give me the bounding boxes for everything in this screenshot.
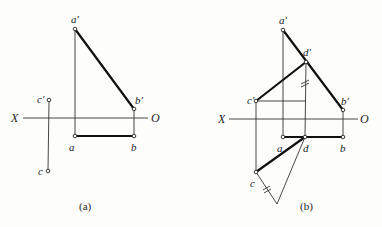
axis-label-o: O xyxy=(151,111,160,125)
panel-a: X O a′ b′ c′ a b c (a) xyxy=(10,13,160,213)
label-b-prime: b′ xyxy=(341,95,350,107)
label-a-prime: a′ xyxy=(71,13,80,25)
segment-c-prime-d-prime xyxy=(256,62,306,101)
label-c: c xyxy=(250,177,255,189)
point-b xyxy=(341,135,345,139)
axis-label-x: X xyxy=(10,111,19,125)
point-b-prime xyxy=(341,108,345,112)
point-c-prime xyxy=(254,99,258,103)
caption-a: (a) xyxy=(79,200,92,213)
label-c-prime: c′ xyxy=(247,94,255,106)
caption-b: (b) xyxy=(300,200,313,213)
point-b xyxy=(132,134,136,138)
label-a-prime: a′ xyxy=(279,14,288,26)
point-a xyxy=(281,135,285,139)
axis-label-o: O xyxy=(360,112,369,126)
point-a xyxy=(73,134,77,138)
point-c-prime xyxy=(47,98,51,102)
label-b: b xyxy=(340,142,346,154)
point-b-prime xyxy=(132,107,136,111)
label-b-prime: b′ xyxy=(135,94,144,106)
label-d-prime: d′ xyxy=(303,46,312,58)
label-a: a xyxy=(277,142,283,154)
label-b: b xyxy=(131,141,137,153)
point-d xyxy=(303,135,307,139)
label-c: c xyxy=(38,165,43,177)
segment-a-prime-b-prime xyxy=(75,29,134,109)
axis-label-x: X xyxy=(217,112,226,126)
label-c-prime: c′ xyxy=(37,93,45,105)
projection-line-dd xyxy=(305,62,306,137)
projection-diagram: X O a′ b′ c′ a b c (a) X O xyxy=(0,0,382,227)
label-a: a xyxy=(69,141,75,153)
point-d-prime xyxy=(304,60,308,64)
point-a-prime xyxy=(281,28,285,32)
label-d: d xyxy=(303,142,309,154)
panel-b: X O a′ d′ b′ c′ a d b c xyxy=(217,14,369,213)
projection-line-cc xyxy=(48,100,49,171)
equal-length-tick-upper xyxy=(301,80,309,87)
diagram-svg: X O a′ b′ c′ a b c (a) X O xyxy=(0,0,382,227)
point-c xyxy=(254,170,258,174)
segment-a-prime-b-prime xyxy=(283,30,343,110)
point-a-prime xyxy=(73,27,77,31)
point-c xyxy=(46,169,50,173)
